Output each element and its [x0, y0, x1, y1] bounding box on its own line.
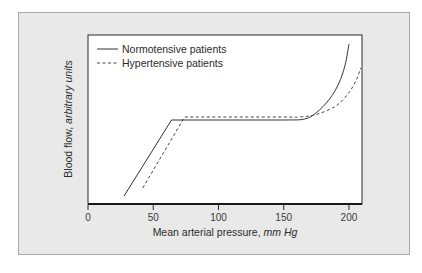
x-axis-label: Mean arterial pressure, mm Hg	[153, 226, 298, 238]
x-axis-ticks: 050100150200	[85, 205, 358, 223]
x-tick-label: 200	[341, 212, 358, 223]
x-tick-label: 0	[85, 212, 91, 223]
legend-label-normotensive: Normotensive patients	[122, 43, 226, 55]
x-axis-label-unit: mm Hg	[264, 226, 298, 238]
y-axis-label: Blood flow, arbitrary units	[62, 60, 74, 178]
x-axis-label-main: Mean arterial pressure,	[153, 226, 264, 238]
x-tick-label: 100	[210, 212, 227, 223]
x-tick-label: 50	[148, 212, 160, 223]
legend-label-hypertensive: Hypertensive patients	[122, 57, 223, 69]
y-axis-label-main: Blood flow,	[62, 124, 74, 178]
y-axis-label-unit: arbitrary units	[62, 60, 74, 124]
x-tick-label: 150	[275, 212, 292, 223]
chart: 050100150200 Normotensive patients Hyper…	[0, 0, 422, 273]
